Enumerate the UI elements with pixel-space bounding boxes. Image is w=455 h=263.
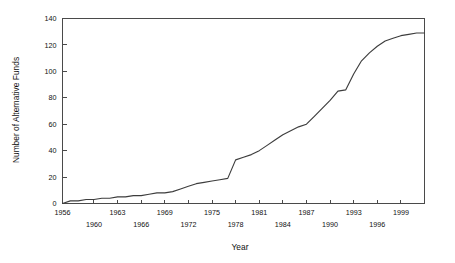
- x-tick-label: 1966: [133, 220, 149, 229]
- x-tick-label: 1963: [110, 208, 126, 217]
- x-tick-label: 1969: [157, 208, 173, 217]
- x-axis-title: Year: [232, 242, 249, 252]
- x-tick-label: 1987: [298, 208, 314, 217]
- data-series-group: [63, 33, 425, 203]
- y-axis-tick-labels: 020406080100120140: [45, 14, 57, 208]
- x-tick-label: 1956: [55, 208, 71, 217]
- y-tick-label: 60: [49, 120, 57, 129]
- y-tick-label: 140: [45, 14, 57, 23]
- x-tick-label: 1999: [393, 208, 409, 217]
- plot-border: [63, 19, 425, 204]
- y-tick-label: 120: [45, 41, 57, 50]
- x-tick-label: 1990: [322, 220, 338, 229]
- chart-figure: 020406080100120140 195619601963196619691…: [0, 0, 455, 263]
- x-tick-label: 1984: [275, 220, 291, 229]
- y-axis-ticks: [63, 19, 67, 204]
- y-tick-label: 40: [49, 146, 57, 155]
- x-tick-label: 1981: [251, 208, 267, 217]
- plot-frame: [63, 19, 425, 204]
- x-tick-label: 1993: [346, 208, 362, 217]
- x-tick-label: 1972: [180, 220, 196, 229]
- series-line: [63, 33, 425, 203]
- x-tick-label: 1978: [228, 220, 244, 229]
- x-tick-label: 1960: [86, 220, 102, 229]
- x-tick-label: 1996: [369, 220, 385, 229]
- line-chart: 020406080100120140 195619601963196619691…: [0, 0, 455, 263]
- x-tick-label: 1975: [204, 208, 220, 217]
- x-axis-ticks: [63, 200, 401, 204]
- y-tick-label: 80: [49, 93, 57, 102]
- y-tick-label: 100: [45, 67, 57, 76]
- y-tick-label: 20: [49, 173, 57, 182]
- x-axis-tick-labels: 1956196019631966196919721975197819811984…: [55, 208, 409, 229]
- y-axis-title: Number of Alternative Funds: [11, 57, 21, 163]
